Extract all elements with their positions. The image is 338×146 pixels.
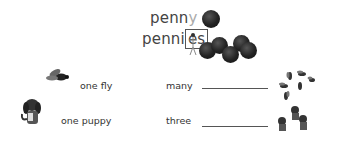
word-penny: penny [150,9,198,27]
puppy-icon [18,97,44,127]
row-2-answer-line[interactable] [202,126,268,127]
row-1-singular: one fly [80,80,112,91]
puppies-icon [275,103,315,133]
row-2-singular: one puppy [61,115,111,126]
stick-figure-icon [188,32,198,56]
fly-icon [44,66,74,84]
word-stem: penni [142,30,185,48]
word-stem: penn [150,9,189,27]
row-2-plural-prefix: three [166,115,191,126]
row-1-answer-line[interactable] [202,88,268,89]
flies-icon [276,70,322,102]
word-ending: y [189,9,198,27]
row-1-plural-prefix: many [166,80,193,91]
word-pennies: pennies [142,30,208,48]
